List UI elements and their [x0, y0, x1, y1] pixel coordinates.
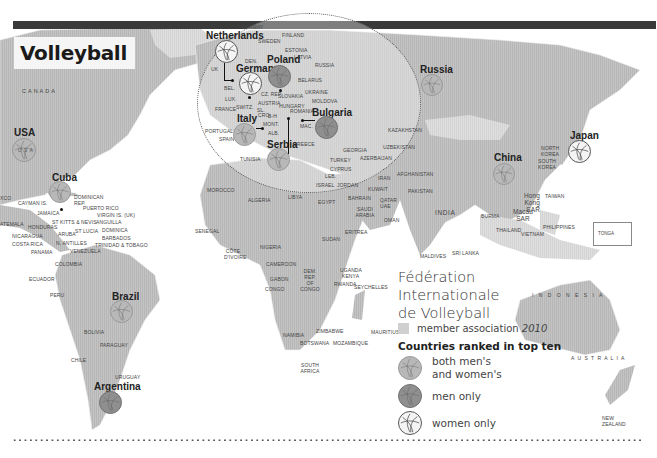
volleyball-icon-bulgaria[interactable] [315, 116, 338, 139]
volleyball-seams-icon [216, 41, 237, 62]
volleyball-seams-icon [422, 75, 442, 95]
tonga-inset-box: TONGA [593, 222, 632, 246]
label-mauritius: MAURITIUS [371, 329, 399, 335]
volleyball-icon-china[interactable] [493, 163, 515, 185]
label-anguilla: ANGUILLA [96, 219, 122, 225]
volleyball-icon-italy[interactable] [233, 123, 256, 146]
pin-poland [279, 89, 282, 92]
label-peru: PERU [50, 292, 64, 298]
volleyball-icon-japan[interactable] [568, 140, 591, 163]
label-congo: CONGO [265, 286, 284, 292]
label-usa-inner: U S A [18, 148, 34, 154]
label-stlucia: ST LUCIA [75, 228, 98, 234]
label-bahrain: BAHRAIN [348, 195, 371, 201]
volleyball-icon [398, 384, 422, 408]
label-puerto-rico: PUERTO RICO [83, 205, 119, 211]
page-title: Volleyball [14, 37, 135, 69]
label-afghanistan: AFGHANISTAN [397, 171, 433, 177]
label-seychelles: SEYCHELLES [354, 284, 388, 290]
dotted-footer-rule [12, 439, 644, 441]
label-colombia: COLOMBIA [55, 261, 82, 267]
legend-member-row: member association 2010 [398, 323, 578, 334]
label-burma: BURMA [481, 213, 500, 219]
volleyball-seams-icon [569, 141, 590, 162]
label-moldova: MOLDOVA [312, 98, 337, 104]
label-turkey: TURKEY [330, 157, 351, 163]
volleyball-icon-argentina[interactable] [99, 391, 122, 414]
country-label-usa: USA [14, 127, 35, 138]
label-tunisia: TUNISIA [240, 156, 260, 162]
volleyball-seams-icon [50, 182, 70, 202]
label-saudi: SAUDI ARABIA [355, 206, 375, 218]
legend-item-men-label: men only [432, 390, 481, 403]
label-bel: BEL. [224, 85, 235, 91]
label-chile: CHILE [71, 357, 86, 363]
pin-germany [248, 96, 251, 99]
label-taiwan: TAIWAN [545, 193, 565, 199]
pin-cuba [60, 208, 63, 211]
label-pakistan: PAKISTAN [408, 188, 433, 194]
label-ukraine: UKRAINE [305, 89, 328, 95]
label-drc: DEM. REP. OF CONGO [300, 268, 320, 292]
label-venezuela: VENEZUELA [70, 248, 101, 254]
label-tonga: TONGA [598, 231, 614, 236]
volleyball-icon-netherlands[interactable] [215, 40, 238, 63]
label-nicaragua: NICARAGUA [12, 233, 43, 239]
label-namibia: NAMIBIA [283, 332, 304, 338]
label-russia-inset: RUSSIA [315, 62, 334, 68]
volleyball-icon [398, 411, 422, 435]
pin-netherlands [231, 79, 234, 82]
volleyball-icon-poland[interactable] [268, 65, 291, 88]
label-india: INDIA [435, 210, 455, 216]
label-finland: FINLAND [282, 32, 304, 38]
label-zimbabwe: ZIMBABWE [316, 328, 343, 334]
legend-item-men: men only [398, 384, 578, 408]
label-dominica: DOMINICA [102, 227, 128, 233]
label-lux: LUX. [225, 96, 237, 102]
label-iran: IRAN [378, 175, 390, 181]
country-label-russia: Russia [420, 64, 453, 75]
label-virgin: VIRGIN IS. (UK) [97, 212, 135, 218]
label-aruba: ARUBA [58, 231, 76, 237]
pointer-line-netherlands [224, 63, 225, 81]
country-label-poland: Poland [267, 54, 300, 65]
volleyball-icon-cuba[interactable] [49, 181, 71, 203]
label-mac: MAC. [300, 123, 313, 129]
label-cayman: CAYMAN IS. [18, 200, 48, 206]
label-stkitts: ST KITTS & NEVIS [52, 219, 97, 225]
country-label-japan: Japan [570, 130, 599, 141]
volleyball-seams-icon [399, 412, 421, 434]
label-south-korea: SOUTH KOREA [538, 158, 556, 170]
label-trinidad: TRINIDAD & TOBAGO [95, 242, 148, 248]
volleyball-icon [398, 356, 422, 380]
label-mexico: XCO [0, 195, 11, 201]
label-leb: LEB. [325, 173, 336, 179]
label-costa-rica: COSTA RICA [12, 241, 43, 247]
volleyball-icon-germany[interactable] [239, 72, 262, 95]
label-belarus: BELARUS [298, 77, 322, 83]
label-eritrea: ERITREA [345, 229, 367, 235]
legend-ranked-heading: Countries ranked in top ten [398, 340, 578, 352]
label-maldives: MALDIVES [420, 253, 446, 259]
label-azerbaijan: AZERBAIJAN [360, 155, 392, 161]
volleyball-icon-usa[interactable]: U S A [12, 138, 36, 162]
volleyball-seams-icon [269, 66, 290, 87]
volleyball-icon-serbia[interactable] [267, 148, 290, 171]
label-slovakia: SLOVAKIA [278, 93, 303, 99]
legend-title-line1: Fédération [398, 268, 578, 286]
label-guatemala: ATEMALA [0, 221, 24, 227]
label-kenya: KENYA [342, 273, 359, 279]
legend-item-both: both men'sand women's [398, 355, 578, 381]
volleyball-icon-brazil[interactable] [110, 300, 133, 323]
legend-item-women-label: women only [432, 417, 496, 430]
volleyball-icon-russia[interactable] [421, 74, 443, 96]
label-gabon: GABON [270, 276, 289, 282]
legend-item-women: women only [398, 411, 578, 435]
legend-item-both-label: both men'sand women's [432, 355, 502, 381]
label-jamaica: JAMAICA [37, 210, 59, 216]
volleyball-seams-icon [111, 301, 132, 322]
country-label-netherlands: Netherlands [206, 30, 264, 41]
volleyball-seams-icon [316, 117, 337, 138]
label-botswana: BOTSWANA [300, 340, 329, 346]
label-algeria: ALGERIA [248, 197, 270, 203]
